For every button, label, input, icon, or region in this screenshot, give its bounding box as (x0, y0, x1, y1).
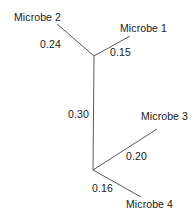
phylogenetic-tree-figure: Microbe 2 Microbe 1 Microbe 3 Microbe 4 … (0, 0, 196, 217)
branch-length-microbe-3: 0.20 (126, 151, 147, 162)
branch-length-microbe-2: 0.24 (40, 39, 61, 50)
edge-to-microbe-2 (57, 24, 94, 56)
taxon-label-microbe-4: Microbe 4 (126, 199, 173, 210)
edge-to-microbe-3 (93, 129, 157, 170)
branch-length-internal: 0.30 (68, 109, 89, 120)
taxon-label-microbe-2: Microbe 2 (14, 12, 61, 23)
taxon-label-microbe-3: Microbe 3 (141, 111, 188, 122)
branch-length-microbe-1: 0.15 (110, 47, 131, 58)
edge-internal-branch (93, 56, 94, 170)
taxon-label-microbe-1: Microbe 1 (120, 23, 167, 34)
branch-length-microbe-4: 0.16 (92, 183, 113, 194)
